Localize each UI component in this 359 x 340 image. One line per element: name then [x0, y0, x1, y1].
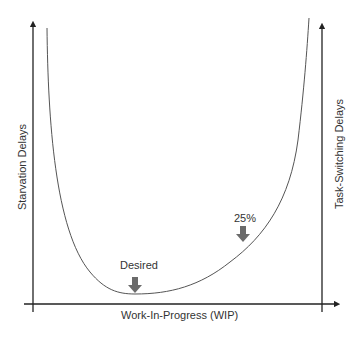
- percent-label: 25%: [234, 212, 256, 224]
- wip-delay-diagram: [0, 0, 359, 340]
- left-axis-label: Starvation Delays: [16, 122, 28, 212]
- delay-curve: [47, 18, 309, 294]
- x-axis-label: Work-In-Progress (WIP): [121, 309, 238, 321]
- desired-arrow-icon: [128, 277, 142, 293]
- right-axis-label: Task-Switching Delays: [333, 99, 345, 209]
- percent-arrow-icon: [236, 226, 250, 242]
- desired-label: Desired: [120, 259, 158, 271]
